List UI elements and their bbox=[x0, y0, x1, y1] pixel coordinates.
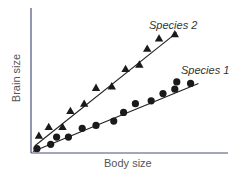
circle-marker bbox=[173, 78, 180, 85]
triangle-marker bbox=[66, 107, 74, 114]
series-layer bbox=[33, 30, 198, 152]
circle-marker bbox=[33, 145, 40, 152]
circle-marker bbox=[53, 133, 60, 140]
circle-marker bbox=[92, 122, 99, 129]
circle-marker bbox=[120, 109, 127, 116]
triangle-marker bbox=[45, 123, 53, 130]
circle-marker bbox=[132, 100, 139, 107]
triangle-marker bbox=[108, 82, 116, 89]
circle-marker bbox=[79, 125, 86, 132]
x-axis-label: Body size bbox=[104, 157, 152, 169]
scatter-plot bbox=[0, 0, 242, 177]
triangle-marker bbox=[135, 60, 143, 67]
fit-line bbox=[33, 83, 198, 151]
series-species-2 bbox=[35, 30, 179, 146]
axes bbox=[31, 8, 228, 153]
triangle-marker bbox=[92, 84, 100, 91]
species-1-label: Species 1 bbox=[181, 64, 229, 76]
circle-marker bbox=[148, 97, 155, 104]
triangle-marker bbox=[155, 34, 163, 41]
circle-marker bbox=[47, 141, 54, 148]
circle-marker bbox=[159, 90, 166, 97]
triangle-marker bbox=[171, 30, 179, 37]
triangle-marker bbox=[80, 100, 88, 107]
triangle-marker bbox=[121, 65, 129, 72]
triangle-marker bbox=[143, 44, 151, 51]
circle-marker bbox=[110, 118, 117, 125]
circle-marker bbox=[171, 86, 178, 93]
y-axis-label: Brain size bbox=[10, 54, 22, 102]
species-2-label: Species 2 bbox=[149, 19, 197, 31]
fit-line bbox=[35, 33, 177, 146]
triangle-marker bbox=[35, 131, 43, 138]
circle-marker bbox=[65, 133, 72, 140]
circle-marker bbox=[187, 80, 194, 87]
